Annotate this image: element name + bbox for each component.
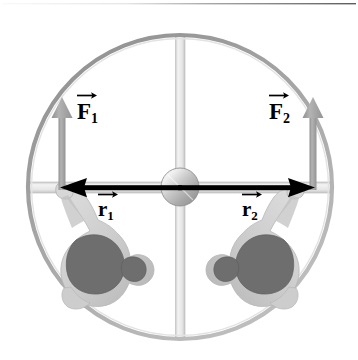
label-r1-base: r bbox=[98, 197, 107, 221]
vector-arrow-icon bbox=[268, 90, 290, 99]
vector-arrow-icon bbox=[241, 189, 263, 198]
person-right-head bbox=[214, 257, 239, 282]
r2-shaft bbox=[178, 185, 291, 190]
label-F2-glyph: F bbox=[269, 100, 283, 123]
label-F1-base: F bbox=[77, 99, 91, 124]
F1-shaft bbox=[59, 112, 66, 190]
label-F2-base: F bbox=[269, 99, 283, 124]
label-r2-base: r bbox=[242, 197, 251, 221]
person-left-torso bbox=[66, 235, 124, 294]
diagram-canvas bbox=[0, 0, 358, 360]
top-rule bbox=[2, 3, 356, 4]
label-r1: r 1 bbox=[98, 199, 114, 222]
person-right-torso bbox=[236, 235, 294, 294]
label-r1-glyph: r bbox=[98, 199, 107, 220]
label-F2: F 2 bbox=[269, 100, 290, 126]
label-F1: F 1 bbox=[77, 100, 98, 126]
label-F2-subscript: 2 bbox=[283, 112, 290, 126]
label-F1-glyph: F bbox=[77, 100, 91, 123]
label-r1-subscript: 1 bbox=[107, 209, 114, 222]
F2-shaft bbox=[310, 112, 317, 190]
physics-diagram-figure: F 1 F 2 r 1 r 2 bbox=[0, 0, 358, 360]
label-r2: r 2 bbox=[242, 199, 258, 222]
person-left-head bbox=[121, 257, 146, 282]
label-F1-subscript: 1 bbox=[91, 112, 98, 126]
label-r2-glyph: r bbox=[242, 199, 251, 220]
vector-arrow-icon bbox=[76, 90, 98, 99]
label-r2-subscript: 2 bbox=[251, 209, 258, 222]
vector-arrow-icon bbox=[97, 189, 119, 198]
